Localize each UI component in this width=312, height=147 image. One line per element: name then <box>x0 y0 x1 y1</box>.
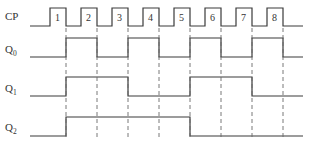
svg-text:7: 7 <box>241 12 246 23</box>
svg-text:2: 2 <box>86 12 91 23</box>
svg-text:0: 0 <box>13 49 17 58</box>
svg-text:4: 4 <box>148 12 153 23</box>
edge-guides <box>66 28 283 140</box>
svg-text:5: 5 <box>179 12 184 23</box>
label-cp: CP <box>5 10 18 22</box>
timing-diagram: CP Q 0 Q 1 Q 2 1 2 3 4 5 6 7 8 <box>0 0 312 147</box>
pulse-numbers: 1 2 3 4 5 6 7 8 <box>55 12 277 23</box>
svg-text:8: 8 <box>272 12 277 23</box>
svg-text:1: 1 <box>55 12 60 23</box>
svg-text:2: 2 <box>13 127 17 136</box>
svg-text:Q: Q <box>5 43 13 55</box>
label-q2: Q 2 <box>5 121 17 136</box>
svg-text:6: 6 <box>210 12 215 23</box>
svg-text:1: 1 <box>13 88 17 97</box>
waveform-q1 <box>30 77 303 96</box>
waveform-cp <box>30 8 303 26</box>
label-q1: Q 1 <box>5 82 17 97</box>
svg-text:Q: Q <box>5 82 13 94</box>
label-q0: Q 0 <box>5 43 17 58</box>
svg-text:Q: Q <box>5 121 13 133</box>
svg-text:3: 3 <box>117 12 122 23</box>
waveform-q2 <box>30 117 303 136</box>
waveform-q0 <box>30 38 303 57</box>
